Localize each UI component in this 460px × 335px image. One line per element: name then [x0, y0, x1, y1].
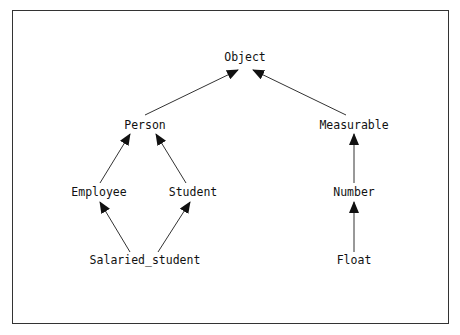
node-float: Float: [337, 255, 372, 267]
arrow-salaried_student-to-employee: [100, 202, 130, 252]
node-employee: Employee: [71, 187, 126, 199]
node-object: Object: [224, 52, 266, 64]
arrow-student-to-person: [156, 134, 186, 183]
node-number: Number: [333, 187, 375, 199]
arrow-person-to-object: [145, 70, 238, 115]
node-measurable: Measurable: [319, 120, 388, 132]
node-student: Student: [169, 187, 217, 199]
arrow-measurable-to-object: [253, 70, 346, 115]
arrow-salaried_student-to-student: [158, 202, 190, 252]
node-salaried-student: Salaried_student: [90, 255, 201, 267]
node-person: Person: [124, 120, 166, 132]
arrow-employee-to-person: [100, 134, 130, 183]
